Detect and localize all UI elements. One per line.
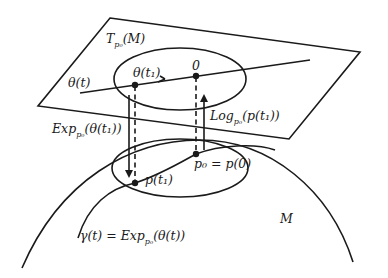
- riemannian-exp-log-diagram: Tp₀(M) θ(t) θ(t₁) 0 Expp₀(θ(t₁)) Logp₀(p…: [0, 0, 388, 278]
- label-p-t1: p(t₁): [145, 172, 173, 187]
- label-manifold: M: [279, 211, 294, 226]
- label-p0: p₀ = p(0): [194, 156, 251, 171]
- label-gamma: γ(t) = Expp₀(θ(t)): [80, 228, 185, 246]
- point-origin: [193, 73, 199, 79]
- point-p-t1: [132, 180, 138, 186]
- label-theta-t: θ(t): [68, 75, 90, 90]
- label-theta-t1: θ(t₁): [133, 65, 160, 80]
- label-origin: 0: [192, 58, 200, 73]
- label-exp-map: Expp₀(θ(t₁)): [51, 121, 122, 139]
- point-theta-t1: [132, 82, 138, 88]
